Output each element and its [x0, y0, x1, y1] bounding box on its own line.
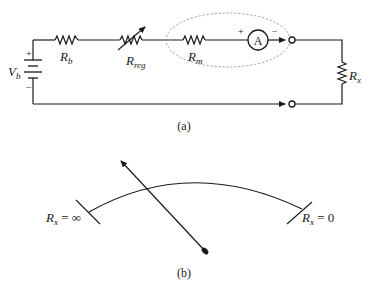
- resistor-rm-label: Rm: [187, 49, 203, 66]
- resistor-rreg: [120, 36, 142, 44]
- resistor-rx-label: Rx: [348, 68, 361, 85]
- wire-right-top: [295, 40, 342, 62]
- resistor-rb: [55, 36, 78, 44]
- scale-label-infinity: Rx = ∞: [45, 210, 81, 227]
- resistor-rm: [183, 36, 205, 44]
- resistor-rb-label: Rb: [59, 49, 73, 66]
- battery-plus-sign: +: [26, 48, 32, 59]
- terminal-bottom: [289, 101, 295, 107]
- caption-a: (a): [177, 119, 190, 133]
- ammeter-minus-sign: −: [272, 26, 278, 37]
- meter-needle: [121, 161, 205, 251]
- ohmmeter-diagram: + − Vb Rb Rreg Rm A + − Rx: [0, 0, 369, 281]
- battery-label: Vb: [8, 64, 21, 81]
- resistor-rreg-label: Rreg: [125, 53, 146, 70]
- scale-arc: [89, 183, 302, 212]
- wire-right-bottom: [295, 84, 342, 104]
- ammeter-symbol: A: [254, 34, 263, 48]
- battery-minus-sign: −: [26, 82, 32, 93]
- scale-label-zero: Rx = 0: [301, 210, 334, 227]
- resistor-rx: [338, 62, 346, 84]
- ammeter-plus-sign: +: [238, 26, 244, 37]
- circuit-a: + − Vb Rb Rreg Rm A + − Rx: [8, 13, 361, 133]
- terminal-top: [289, 37, 295, 43]
- meter-scale-b: Rx = ∞ Rx = 0 (b): [45, 161, 334, 280]
- caption-b: (b): [177, 266, 191, 280]
- battery-symbol: [24, 60, 42, 78]
